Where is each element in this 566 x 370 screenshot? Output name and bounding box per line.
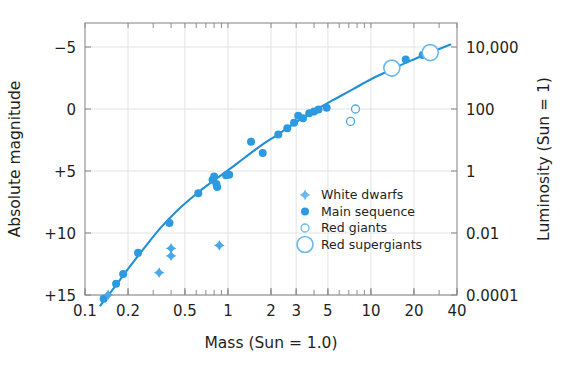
data-point xyxy=(384,60,400,76)
data-point xyxy=(299,114,307,122)
x-tick-label: 5 xyxy=(323,302,333,320)
legend-label: Main sequence xyxy=(321,204,415,219)
mass-luminosity-chart: 0.10.20.51235102040−50+5+10+1510,0001001… xyxy=(0,0,566,370)
legend-label: Red giants xyxy=(321,220,387,235)
data-point xyxy=(274,130,282,138)
y2-tick-label: 0.01 xyxy=(466,225,499,243)
y-tick-label: 0 xyxy=(66,101,76,119)
chart-canvas: 0.10.20.51235102040−50+5+10+1510,0001001… xyxy=(0,0,566,370)
series-white-dwarfs xyxy=(103,240,225,300)
data-point xyxy=(166,251,177,262)
data-point xyxy=(283,124,291,132)
data-point xyxy=(214,240,225,251)
legend-marker-open-circle-large xyxy=(297,237,313,253)
legend-marker-open-circle-small xyxy=(301,224,309,232)
data-point xyxy=(352,105,360,113)
legend-label: White dwarfs xyxy=(321,187,403,202)
y2-tick-label: 0.0001 xyxy=(466,287,519,305)
data-point xyxy=(347,117,355,125)
mass-luminosity-curve xyxy=(100,45,450,306)
data-point xyxy=(315,106,323,114)
data-point xyxy=(112,280,120,288)
legend-marker-filled-circle xyxy=(301,208,309,216)
x-tick-label: 10 xyxy=(361,302,380,320)
data-point xyxy=(194,189,202,197)
y-tick-label: +15 xyxy=(44,287,76,305)
data-point xyxy=(154,267,165,278)
legend-marker-star xyxy=(300,190,311,201)
data-point xyxy=(210,173,218,181)
x-tick-label: 0.5 xyxy=(173,302,197,320)
data-point xyxy=(422,45,438,61)
x-tick-label: 0.2 xyxy=(116,302,140,320)
x-tick-label: 2 xyxy=(266,302,276,320)
x-tick-label: 0.1 xyxy=(73,302,97,320)
legend-item-red-supergiants: Red supergiants xyxy=(297,237,422,253)
y2-tick-label: 10,000 xyxy=(466,39,519,57)
legend-label: Red supergiants xyxy=(321,237,422,252)
y-axis-title: Absolute magnitude xyxy=(6,81,24,238)
series-red-giants xyxy=(347,105,360,125)
data-point xyxy=(119,270,127,278)
x-axis-title: Mass (Sun = 1.0) xyxy=(204,334,337,352)
data-point xyxy=(213,183,221,191)
data-point xyxy=(290,119,298,127)
y-tick-label: +10 xyxy=(44,225,76,243)
data-point xyxy=(134,249,142,257)
data-point xyxy=(402,55,410,63)
data-point xyxy=(247,138,255,146)
series-main-sequence xyxy=(100,51,427,303)
x-tick-label: 40 xyxy=(447,302,466,320)
y-tick-label: +5 xyxy=(54,163,76,181)
legend-item-white-dwarfs: White dwarfs xyxy=(300,187,404,202)
y2-tick-label: 1 xyxy=(466,163,476,181)
data-point xyxy=(323,104,331,112)
legend-item-main-sequence: Main sequence xyxy=(301,204,415,219)
tick-labels: 0.10.20.51235102040−50+5+10+1510,0001001… xyxy=(44,39,518,321)
y-tick-label: −5 xyxy=(54,39,76,57)
y2-axis-title: Luminosity (Sun = 1) xyxy=(535,77,553,241)
legend: White dwarfsMain sequenceRed giantsRed s… xyxy=(297,187,422,253)
data-point xyxy=(225,171,233,179)
x-tick-label: 20 xyxy=(404,302,423,320)
x-tick-label: 3 xyxy=(291,302,301,320)
fit-curve xyxy=(100,45,450,306)
y2-tick-label: 100 xyxy=(466,101,495,119)
data-point xyxy=(166,219,174,227)
data-point xyxy=(259,149,267,157)
x-tick-label: 1 xyxy=(223,302,233,320)
